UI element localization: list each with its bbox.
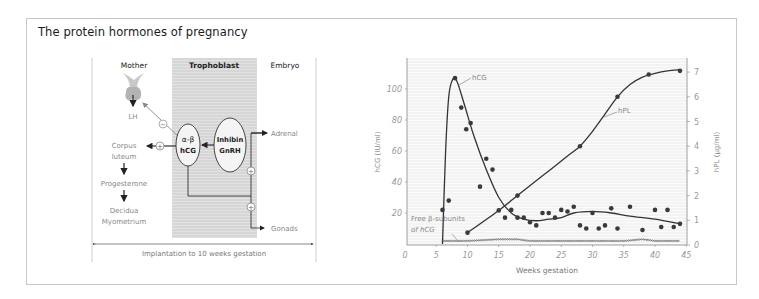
svg-text:+: + [248,204,254,212]
hcg-data-point [464,127,469,132]
lh-label: LH [128,113,137,121]
hcg-data-point [446,198,451,203]
hcg-data-point [440,208,445,213]
hcg-label: hCG [180,147,196,155]
hcg-data-point [565,209,570,214]
footer-caption: Implantation to 10 weeks gestation [142,250,266,258]
svg-text:+: + [157,143,163,151]
y-right-axis-label: hPL (µg/ml) [713,132,721,173]
hcg-data-point [528,220,533,225]
column-trophoblast: Trophoblast [189,61,239,70]
x-tick-label: 15 [494,251,504,260]
hcg-data-point [546,211,551,216]
hpl-data-point [615,95,620,100]
x-tick-label: 0 [402,251,407,260]
hcg-data-point [540,211,545,216]
hcg-ellipse [176,124,200,166]
hcg-data-point [584,226,589,231]
hpl-data-point [465,230,470,235]
hpl-data-point [646,72,651,77]
hcg-data-point [609,206,614,211]
y-right-tick-label: 1 [694,216,699,225]
y-left-axis-label: hCG (IU/ml) [374,131,382,172]
corpus-label: Corpus [112,142,137,150]
x-tick-label: 5 [434,251,439,260]
hcg-data-point [515,215,520,220]
hormone-diagram: Mother Trophoblast Embryo LH − Corpus lu… [92,58,316,262]
hcg-data-point [590,211,595,216]
y-right-ticks: 01234567 [687,68,699,250]
x-tick-label: 30 [587,251,597,260]
hcg-data-point [596,226,601,231]
y-left-tick-label: 20 [392,209,402,218]
inhibin-label: Inhibin [217,136,244,144]
hpl-data-point [515,193,520,198]
hcg-data-point [653,208,658,213]
hcg-data-point [478,184,483,189]
hpl-data-point [496,208,501,213]
y-right-tick-label: 4 [694,142,699,151]
y-right-tick-label: 7 [694,68,699,77]
gonads-label: Gonads [271,225,298,233]
x-tick-label: 40 [650,251,660,260]
y-left-tick-label: 100 [387,85,402,94]
column-embryo: Embryo [271,61,300,70]
hcg-data-point [603,223,608,228]
myometrium-label: Myometrium [102,218,147,226]
y-left-tick-label: 60 [392,147,402,156]
x-tick-label: 45 [681,251,691,260]
x-tick-label: 25 [556,251,566,260]
column-mother: Mother [121,61,148,70]
y-left-ticks: 20406080100 [387,85,407,218]
progesterone-label: Progesterone [101,180,147,188]
hcg-data-point [459,105,464,110]
hcg-data-point [578,223,583,228]
y-right-tick-label: 0 [694,241,699,250]
luteum-label: luteum [112,153,137,161]
hcg-data-point [468,121,473,126]
y-left-tick-label: 80 [392,116,402,125]
decidua-label: Decidua [110,207,139,215]
hcg-data-point [521,215,526,220]
free-beta-annotation-2: of hCG [411,226,435,234]
svg-text:−: − [160,121,166,129]
hcg-data-point [559,208,564,213]
hpl-data-point [678,69,683,74]
hcg-annotation: hCG [472,74,487,82]
x-axis-label: Weeks gestation [516,266,578,275]
hcg-data-point [640,228,645,233]
y-right-tick-label: 5 [694,118,699,127]
hcg-data-point [665,208,670,213]
x-tick-label: 20 [525,251,535,260]
inhibin-gnrh-ellipse [214,118,246,172]
hcg-data-point [490,167,495,172]
hcg-data-point [534,223,539,228]
hcg-data-point [571,205,576,210]
svg-text:+: + [248,168,254,176]
hcg-data-point [678,222,683,227]
hcg-data-point [553,215,558,220]
hormone-chart: 051015202530354045 20406080100 01234567 … [374,58,721,275]
hcg-data-point [503,215,508,220]
hcg-data-point [671,225,676,230]
gnrh-label: GnRH [219,147,241,155]
y-left-tick-label: 40 [392,178,402,187]
free-beta-annotation: Free β-subunits [411,215,465,223]
adrenal-label: Adrenal [271,130,298,138]
alpha-beta-label: α-β [182,135,195,144]
hcg-data-point [484,156,489,161]
x-ticks: 051015202530354045 [402,245,691,260]
y-right-tick-label: 2 [694,192,699,201]
y-right-tick-label: 6 [694,93,699,102]
y-right-tick-label: 3 [694,167,699,176]
x-tick-label: 10 [462,251,472,260]
x-tick-label: 35 [619,251,629,260]
hcg-data-point [509,208,514,213]
hcg-data-point [659,225,664,230]
hpl-data-point [578,144,583,149]
hcg-data-point [615,226,620,231]
hcg-data-point [628,205,633,210]
hcg-data-point [453,76,458,81]
figure-canvas: Mother Trophoblast Embryo LH − Corpus lu… [0,0,759,299]
hpl-annotation: hPL [618,107,631,115]
